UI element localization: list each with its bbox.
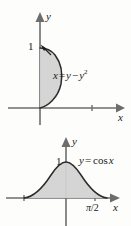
cos-label-rhs: cos <box>92 154 109 166</box>
curve-label-bottom: y=cosx <box>79 155 114 166</box>
curve-label-top: x=y−y2 <box>53 70 88 81</box>
pi-denominator: /2 <box>91 202 99 213</box>
x-axis-label-top: x <box>118 112 123 123</box>
x-axis-top <box>8 104 125 113</box>
cos-label-variable: x <box>109 154 114 166</box>
x-axis-label-bottom: x <box>113 202 118 213</box>
curve-label-exponent: 2 <box>84 68 88 76</box>
figure-bottom-graphic <box>0 125 131 226</box>
y-axis-label-top: y <box>46 11 51 22</box>
y-value-label-top: 1 <box>28 41 34 52</box>
y-axis-label-bottom: y <box>72 136 77 147</box>
figure-panel-top: y x 1 x=y−y2 <box>0 0 131 125</box>
figure-sheet: y x 1 x=y−y2 y x 1 <box>0 0 131 226</box>
figure-top-graphic <box>0 0 131 125</box>
figure-panel-bottom: y x 1 y=cosx π/2 <box>0 125 131 226</box>
curve-label-minus: − <box>71 69 79 81</box>
cos-label-equals: = <box>84 154 92 166</box>
y-value-label-bottom: 1 <box>56 156 62 167</box>
curve-label-equals: = <box>58 69 66 81</box>
x-tick-label-pi-over-two: π/2 <box>86 203 99 213</box>
